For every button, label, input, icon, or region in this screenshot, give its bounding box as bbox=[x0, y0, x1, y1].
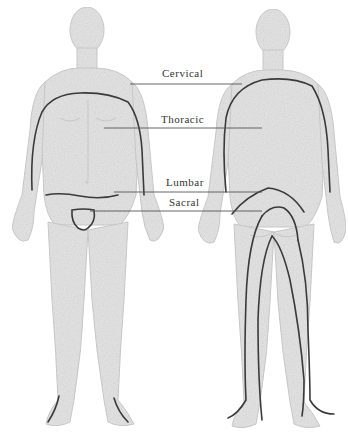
label-lumbar: Lumbar bbox=[166, 176, 204, 188]
front-body-figure bbox=[12, 7, 164, 426]
label-thoracic: Thoracic bbox=[161, 113, 204, 125]
anatomy-diagram bbox=[0, 0, 348, 433]
back-body-figure bbox=[198, 9, 346, 428]
label-sacral: Sacral bbox=[169, 196, 199, 208]
label-cervical: Cervical bbox=[162, 67, 203, 79]
